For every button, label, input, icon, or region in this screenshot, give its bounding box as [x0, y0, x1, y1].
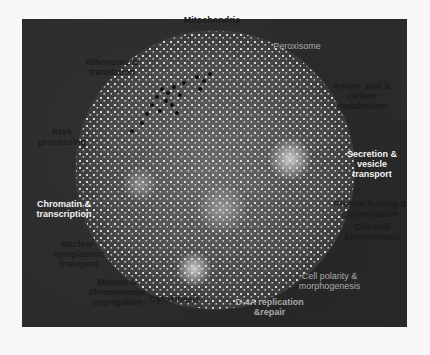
label-glycosylation: Protein folding & glycosylation: [330, 199, 410, 219]
label-cell-polarity: Cell polarity & morphogenesis: [287, 271, 372, 291]
label-peroxisome: Peroxisome: [262, 41, 332, 51]
label-dna-replication: D-4A replication &repair: [227, 297, 312, 317]
label-cytokinesis: Cytokinesis: [140, 294, 210, 304]
label-secretion: Secretion & vesicle transport: [337, 149, 407, 179]
label-cell-wall: Cell wall biosynthesis: [337, 222, 407, 242]
label-chromatin: Chromatin & transcription: [24, 199, 104, 219]
central-cluster: [196, 183, 248, 235]
label-nuclear-transport: Nuclear- cytoplasmic transport: [44, 239, 114, 269]
network-figure-panel: Mitochondria Ribosome & translation Pero…: [22, 19, 407, 327]
label-mitochondria: Mitochondria: [172, 15, 252, 25]
chromatin-cluster: [122, 166, 158, 202]
label-ribosome: Ribosome & translation: [72, 57, 152, 77]
label-metabolism: Amino acid & carbon metabolism: [322, 81, 402, 111]
dna-replication-cluster: [176, 251, 212, 287]
secretion-cluster: [268, 137, 312, 181]
label-rna-processing: RNA processing: [32, 127, 92, 147]
